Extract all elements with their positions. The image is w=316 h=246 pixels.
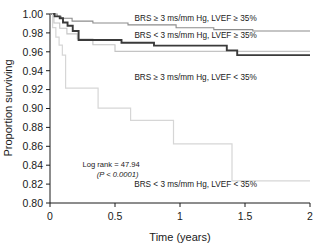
curve-label: BRS ≥ 3 ms/mm Hg, LVEF ≥ 35% [135,14,257,23]
y-axis-tick-group: 0.800.820.840.860.880.900.920.940.960.98… [23,8,50,209]
y-tick-label: 0.90 [23,102,44,114]
y-tick-label: 0.88 [23,121,44,133]
curve-label: BRS ≥ 3 ms/mm Hg, LVEF < 35% [134,73,256,82]
x-tick-label: 0.5 [108,210,123,222]
curve-label: BRS < 3 ms/mm Hg, LVEF ≥ 35% [134,31,256,40]
kaplan-meier-chart: 0.800.820.840.860.880.900.920.940.960.98… [0,0,316,246]
y-tick-label: 0.82 [23,178,44,190]
y-tick-label: 0.94 [23,65,44,77]
annotation-group: Log rank = 47.94(P < 0.0001) [82,160,139,179]
statistic-annotation: Log rank = 47.94 [82,160,139,169]
statistic-annotation: (P < 0.0001) [97,170,139,179]
y-tick-label: 0.84 [23,159,44,171]
x-tick-label: 1.5 [238,210,253,222]
y-tick-label: 0.92 [23,83,44,95]
y-axis-title: Proportion surviving [2,59,14,156]
curve-label: BRS < 3 ms/mm Hg, LVEF < 35% [134,180,257,189]
y-tick-label: 0.98 [23,27,44,39]
y-tick-label: 1.00 [23,8,44,20]
chart-canvas: 0.800.820.840.860.880.900.920.940.960.98… [0,0,316,246]
series-label-group: BRS ≥ 3 ms/mm Hg, LVEF ≥ 35%BRS < 3 ms/m… [134,14,257,189]
y-tick-label: 0.96 [23,46,44,58]
x-tick-label: 0 [47,210,53,222]
x-tick-label: 2 [307,210,313,222]
x-tick-label: 1 [177,210,183,222]
y-tick-label: 0.86 [23,140,44,152]
x-axis-tick-group: 00.511.52 [47,203,313,222]
y-tick-label: 0.80 [23,197,44,209]
x-axis-title: Time (years) [149,231,210,243]
